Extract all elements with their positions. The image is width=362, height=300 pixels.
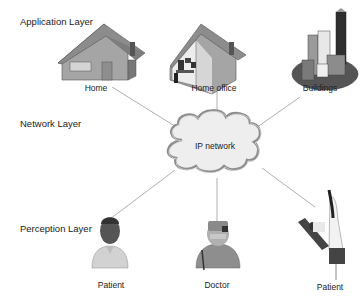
patient-icon <box>92 217 128 268</box>
line-buildings-to-cloud <box>256 97 300 128</box>
node-label-doctor: Doctor <box>204 280 229 290</box>
layer-label-network: Network Layer <box>20 118 81 129</box>
iot-architecture-diagram: Application Layer Network Layer Percepti… <box>0 0 362 300</box>
node-label-home-office: Home office <box>191 83 236 93</box>
nurse-patient-icon <box>298 190 345 280</box>
house-icon <box>58 24 145 80</box>
line-cloud-to-nurse-patient <box>262 168 315 207</box>
diagram-graphics <box>0 0 362 300</box>
node-label-home: Home <box>85 83 108 93</box>
line-home-to-cloud <box>112 87 178 128</box>
node-label-buildings: Buildings <box>303 83 338 93</box>
layer-label-perception: Perception Layer <box>20 223 92 234</box>
cloud-label: IP network <box>195 141 235 151</box>
buildings-icon <box>292 8 358 90</box>
node-label-patient-right: Patient <box>317 282 343 292</box>
node-label-patient-left: Patient <box>98 280 124 290</box>
doctor-icon <box>196 221 240 270</box>
line-cloud-to-patient <box>110 170 175 219</box>
layer-label-application: Application Layer <box>20 16 93 27</box>
